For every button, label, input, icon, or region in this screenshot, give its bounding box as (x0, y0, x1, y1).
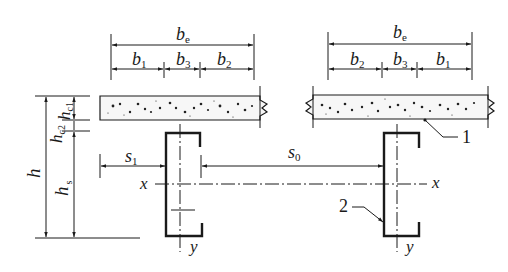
composite-section-diagram: be b1 b3 b2 be b2 b3 b1 (0, 0, 508, 272)
left-channel-section: y (166, 124, 202, 256)
hc2-label: hc2 (47, 125, 67, 143)
left-b1-label: b1 (132, 49, 147, 70)
left-width-dimensions: be b1 b3 b2 (111, 24, 254, 80)
callout-2: 2 (339, 196, 383, 222)
spacing-dimensions: s1 s0 (100, 142, 383, 178)
callout-1: 1 (423, 118, 471, 147)
hc1-label: hc1 (55, 102, 75, 120)
right-concrete-slab (306, 86, 494, 128)
left-x-axis-label: x (139, 174, 148, 193)
s1-label: s1 (125, 146, 138, 167)
left-be-label: be (176, 24, 190, 45)
right-width-dimensions: be b2 b3 b1 (328, 22, 472, 80)
left-y-axis-label: y (188, 237, 198, 256)
s0-label: s0 (288, 142, 301, 163)
left-concrete-slab (100, 96, 267, 120)
x-axis: x x (139, 173, 440, 193)
left-b2-label: b2 (217, 49, 232, 70)
right-x-axis-label: x (431, 173, 440, 192)
right-b1-label: b1 (436, 49, 451, 70)
left-b3-label: b3 (176, 49, 191, 70)
callout-1-number: 1 (462, 127, 471, 147)
callout-2-number: 2 (339, 196, 348, 216)
right-be-label: be (393, 22, 407, 43)
right-channel-section: y (384, 124, 419, 256)
h-label: h (23, 169, 44, 179)
right-b2-label: b2 (350, 49, 365, 70)
right-y-axis-label: y (404, 237, 414, 256)
right-b3-label: b3 (393, 49, 408, 70)
hs-label: hs (51, 181, 74, 197)
